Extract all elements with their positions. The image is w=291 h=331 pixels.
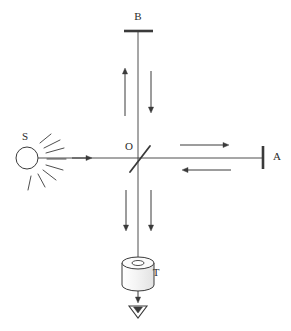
arrow-mirror-a-to-splitter-head	[182, 167, 188, 172]
arrow-source-to-splitter	[72, 155, 92, 160]
light-source-group	[16, 134, 66, 190]
output-funnel-icon	[129, 306, 147, 318]
source-ray-4	[46, 165, 63, 170]
detector-aperture-icon	[132, 261, 144, 266]
source-ray-5	[43, 170, 56, 180]
source-ray-1	[44, 140, 60, 148]
arrow-output-right	[148, 190, 153, 231]
arrow-output-left	[123, 190, 128, 231]
funnel-inner-mark	[134, 307, 143, 313]
label-detector-t: T	[153, 266, 160, 278]
label-mirror-a: A	[273, 150, 281, 162]
arrow-splitter-to-mirror-b-head	[122, 68, 127, 74]
label-beam-splitter-o: O	[125, 140, 133, 152]
arrow-splitter-to-mirror-a-head	[223, 142, 229, 147]
mirror-group	[124, 31, 263, 169]
detector-group	[122, 257, 154, 318]
arrow-splitter-to-mirror-b	[122, 68, 127, 116]
beam-splitter-group	[130, 146, 150, 172]
arrow-mirror-b-to-splitter	[148, 71, 153, 113]
interferometer-diagram: SBAOT	[0, 0, 291, 331]
source-ray-6	[38, 174, 45, 187]
source-circle-icon	[16, 147, 38, 169]
arrow-output-right-head	[148, 225, 153, 231]
arrow-output-left-head	[123, 225, 128, 231]
arrow-mirror-b-to-splitter-head	[148, 107, 153, 113]
source-ray-7	[28, 176, 31, 190]
label-mirror-b: B	[134, 10, 141, 22]
label-group: SBAOT	[22, 10, 281, 278]
source-ray-2	[46, 148, 64, 153]
source-ray-0	[40, 134, 51, 143]
arrow-mirror-a-to-splitter	[182, 167, 231, 172]
label-source-s: S	[22, 130, 28, 142]
diagram-canvas: SBAOT	[0, 0, 291, 331]
arrow-source-to-splitter-head	[86, 155, 92, 160]
beam-splitter-plate	[130, 146, 150, 172]
arrow-splitter-to-mirror-a	[180, 142, 229, 147]
arrow-detector-output-head	[135, 297, 140, 303]
